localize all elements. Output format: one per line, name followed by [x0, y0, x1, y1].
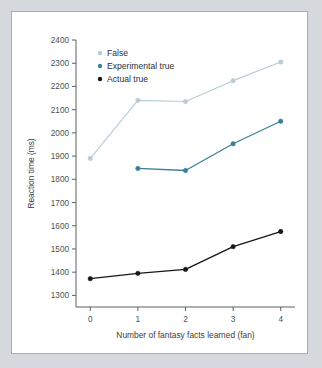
reaction-time-line-chart: 1300140015001600170018001900200021002200… [12, 12, 306, 352]
y-tick-label-2400: 2400 [51, 36, 70, 45]
data-point-x4-y1575 [279, 229, 283, 233]
y-tick-label-1700: 1700 [51, 199, 70, 208]
data-point-x0-y1372 [88, 276, 92, 280]
legend-label: Actual true [107, 74, 148, 84]
data-point-x3-y1510 [231, 244, 235, 248]
data-point-x3-y1953 [231, 142, 235, 146]
y-tick-label-1900: 1900 [51, 152, 70, 161]
legend-label: Experimental true [107, 61, 175, 71]
y-tick-label-1600: 1600 [51, 222, 70, 231]
y-tick-label-1500: 1500 [51, 245, 70, 254]
data-point-x2-y2135 [183, 99, 187, 103]
legend-item-false: False [98, 48, 128, 58]
legend-item-actual-true: Actual true [98, 74, 149, 84]
chart-card: 1300140015001600170018001900200021002200… [11, 11, 308, 354]
data-point-x1-y1847 [136, 166, 140, 170]
legend-marker [98, 64, 102, 68]
x-tick-label-1: 1 [136, 315, 141, 324]
legend-label: False [107, 48, 128, 58]
data-point-x2-y1412 [183, 267, 187, 271]
data-point-x3-y2225 [231, 78, 235, 82]
x-tick-label-0: 0 [88, 315, 93, 324]
y-tick-label-1400: 1400 [51, 268, 70, 277]
figure-root: 1300140015001600170018001900200021002200… [0, 0, 322, 368]
y-tick-label-2300: 2300 [51, 59, 70, 68]
data-point-x0-y1890 [88, 156, 92, 160]
series-experimental-true [136, 119, 283, 173]
x-tick-label-2: 2 [183, 315, 188, 324]
y-tick-label-1800: 1800 [51, 175, 70, 184]
legend-item-experimental-true: Experimental true [98, 61, 175, 71]
legend-marker [98, 51, 102, 55]
data-point-x1-y2140 [136, 98, 140, 102]
y-axis-title: Reaction time (ms) [26, 138, 36, 208]
data-point-x1-y1395 [136, 271, 140, 275]
data-point-x2-y1838 [183, 168, 187, 172]
legend-marker [98, 77, 102, 81]
data-point-x4-y2050 [279, 119, 283, 123]
y-tick-label-2000: 2000 [51, 129, 70, 138]
series-line [138, 121, 281, 170]
y-tick-label-2200: 2200 [51, 82, 70, 91]
y-tick-label-2100: 2100 [51, 106, 70, 115]
x-axis-title: Number of fantasy facts learned (fan) [116, 330, 254, 340]
y-tick-label-1300: 1300 [51, 291, 70, 300]
x-tick-label-4: 4 [278, 315, 283, 324]
series-actual-true [88, 229, 283, 281]
data-point-x4-y2305 [279, 60, 283, 64]
x-tick-label-3: 3 [231, 315, 236, 324]
